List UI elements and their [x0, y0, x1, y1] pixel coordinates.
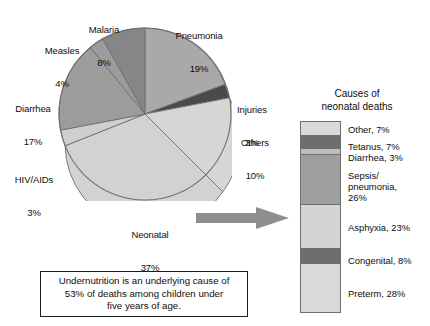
undernutrition-note-box: Undernutrition is an underlying cause of…	[40, 271, 248, 317]
note-line-1: Undernutrition is an underlying cause of	[59, 275, 230, 287]
bar-segment-other	[301, 122, 340, 136]
bar-segment-asphyxia	[301, 205, 340, 249]
stacked-bar-column	[300, 121, 341, 313]
bar-chart-title-line1: Causes of	[296, 88, 418, 101]
bar-segment-tetanus	[301, 136, 340, 149]
note-line-3: five years of age.	[107, 300, 181, 312]
bar-label-congenital: Congenital, 8%	[348, 255, 412, 266]
arrow-right-icon	[196, 206, 290, 230]
bar-label-diarrhea: Diarrhea, 3%	[348, 152, 403, 163]
pie-label-hiv-aids-value: 3%	[3, 207, 65, 218]
pie-label-others: Others 10%	[228, 115, 282, 203]
note-line-2: 53% of deaths among children under	[65, 288, 223, 300]
pie-label-pneumonia-value: 19%	[156, 63, 242, 74]
stacked-bar-labels: Other, 7% Tetanus, 7% Diarrhea, 3% Sepsi…	[348, 121, 430, 313]
bar-chart-title: Causes of neonatal deaths	[296, 88, 418, 113]
bar-label-sepsis-line2: pneumonia,	[348, 181, 397, 192]
bar-segment-preterm	[301, 264, 340, 312]
bar-chart-title-line2: neonatal deaths	[296, 101, 418, 114]
bar-label-sepsis-line3: 26%	[348, 192, 367, 203]
pie-label-malaria-name: Malaria	[75, 24, 133, 35]
pie-label-others-value: 10%	[228, 170, 282, 181]
pie-label-others-name: Others	[228, 137, 282, 148]
bar-label-asphyxia: Asphyxia, 23%	[348, 222, 410, 233]
bar-label-tetanus: Tetanus, 7%	[348, 141, 400, 152]
pie-label-neonatal-name: Neonatal	[114, 229, 186, 240]
pie-label-injuries-name: Injuries	[222, 104, 282, 115]
figure-child-mortality-causes: Pneumonia 19% Injuries 3% Others 10% Neo…	[0, 0, 430, 326]
bar-label-preterm: Preterm, 28%	[348, 288, 405, 299]
arrow-shape	[196, 207, 289, 229]
bar-label-other: Other, 7%	[348, 124, 390, 135]
pie-label-diarrhea-value: 17%	[2, 136, 64, 147]
pie-label-hiv-aids-name: HIV/AIDs	[3, 174, 65, 185]
pie-label-pneumonia-name: Pneumonia	[156, 30, 242, 41]
pie-label-malaria: Malaria 8%	[75, 2, 133, 90]
bar-label-sepsis-line1: Sepsis/	[348, 170, 379, 181]
bar-segment-congenital	[301, 249, 340, 264]
bar-segment-sepsis-pneumonia	[301, 155, 340, 205]
pie-label-malaria-value: 8%	[75, 57, 133, 68]
